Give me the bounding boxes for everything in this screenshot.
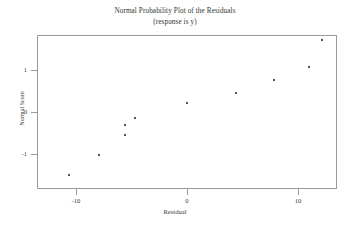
chart-subtitle: (response is y) [0, 17, 350, 28]
y-axis-tick-label: 1 [3, 66, 27, 73]
x-axis-tick [187, 189, 188, 195]
data-point [273, 79, 275, 81]
data-point [98, 154, 100, 156]
y-axis-tick [31, 70, 37, 71]
plot-area [37, 35, 337, 189]
x-axis-tick [76, 189, 77, 195]
x-axis-tick-label: 10 [281, 197, 315, 204]
y-axis-tick [31, 112, 37, 113]
y-axis-tick [31, 154, 37, 155]
data-point [321, 39, 323, 41]
page-title: Normal Probability Plot of the Residuals [0, 6, 350, 17]
data-point [235, 92, 237, 94]
data-point [68, 174, 70, 176]
data-point [134, 117, 136, 119]
data-point [186, 102, 188, 104]
data-point [124, 124, 126, 126]
normal-probability-plot: Normal Probability Plot of the Residuals… [0, 0, 350, 228]
x-axis-tick-label: -10 [59, 197, 93, 204]
title-block: Normal Probability Plot of the Residuals… [0, 6, 350, 28]
data-point [308, 66, 310, 68]
y-axis-tick-label: -1 [3, 150, 27, 157]
scatter-points-layer [38, 36, 336, 188]
x-axis-label: Residual [0, 208, 350, 215]
x-axis-tick-label: 0 [170, 197, 204, 204]
y-axis-tick-label: 0 [3, 108, 27, 115]
data-point [124, 134, 126, 136]
x-axis-tick [298, 189, 299, 195]
